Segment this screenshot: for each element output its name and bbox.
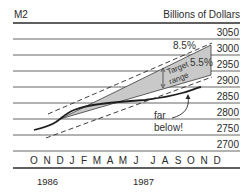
- y-tick-2750: 2750: [217, 123, 239, 134]
- month-label: A: [105, 155, 115, 166]
- upper-rate-label: 8.5%: [173, 40, 196, 51]
- far-label: far: [154, 110, 166, 121]
- arrowhead-icon: [186, 94, 191, 99]
- month-label: M: [92, 155, 102, 166]
- far-below-arrow: [172, 96, 188, 118]
- month-label: F: [79, 155, 89, 166]
- month-label: D: [212, 155, 222, 166]
- month-label: O: [186, 155, 196, 166]
- y-tick-2950: 2950: [217, 59, 239, 70]
- year-label-1986: 1986: [37, 176, 58, 187]
- y-axis-unit-label: Billions of Dollars: [163, 9, 240, 20]
- month-label: O: [29, 155, 39, 166]
- month-label: S: [173, 155, 183, 166]
- y-tick-3000: 3000: [217, 43, 239, 54]
- m2-chart: M2 Billions of Dollars 3050 3000 2950 29…: [0, 0, 252, 194]
- month-label: N: [199, 155, 209, 166]
- y-tick-3050: 3050: [217, 27, 239, 38]
- month-label: N: [42, 155, 52, 166]
- month-label: D: [55, 155, 65, 166]
- month-label: M: [118, 155, 128, 166]
- lower-rate-label: 5.5%: [190, 57, 213, 68]
- chart-title: M2: [14, 9, 28, 20]
- year-label-1987: 1987: [133, 176, 154, 187]
- month-label: A: [160, 155, 170, 166]
- month-label: J: [67, 155, 77, 166]
- y-tick-2850: 2850: [217, 91, 239, 102]
- month-label: J: [148, 155, 158, 166]
- y-tick-2800: 2800: [217, 107, 239, 118]
- below-label: below!: [154, 122, 183, 133]
- month-label: J: [131, 155, 141, 166]
- y-tick-2900: 2900: [217, 75, 239, 86]
- y-tick-2700: 2700: [217, 139, 239, 150]
